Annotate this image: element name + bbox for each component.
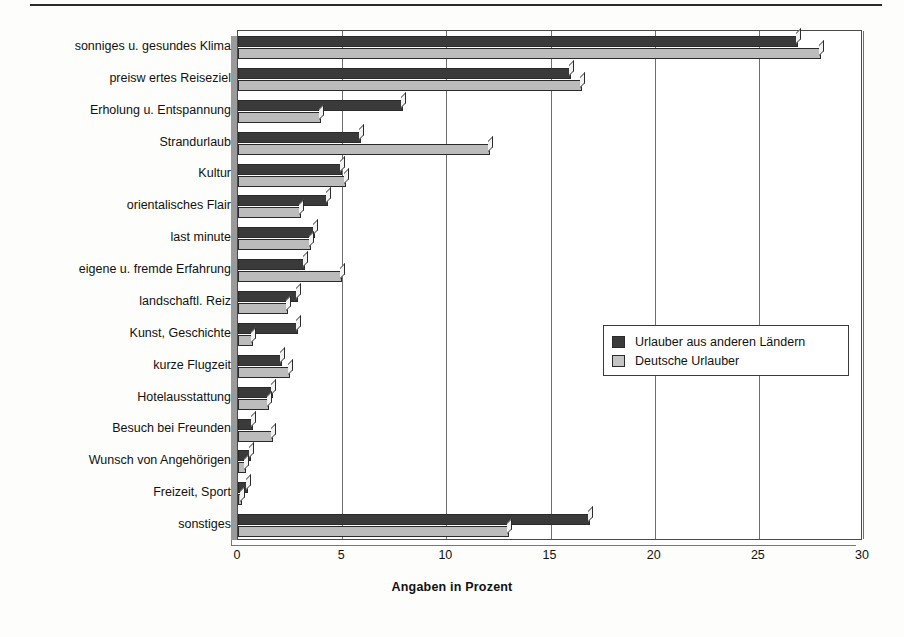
bar <box>238 48 821 59</box>
bar <box>238 367 290 378</box>
x-axis-title: Angaben in Prozent <box>0 580 904 594</box>
chart-legend: Urlauber aus anderen Ländern Deutsche Ur… <box>603 325 849 376</box>
category-axis-labels: sonniges u. gesundes Klimapreisw ertes R… <box>0 30 237 540</box>
x-tick-label: 20 <box>647 548 661 562</box>
bar <box>238 494 242 505</box>
bar <box>238 36 798 47</box>
bar <box>238 514 590 525</box>
bar <box>238 207 301 218</box>
gridline <box>863 31 864 539</box>
bar <box>238 355 282 366</box>
category-label: sonstiges <box>9 517 237 531</box>
bar <box>238 335 253 346</box>
bar <box>238 419 253 430</box>
bar <box>238 164 342 175</box>
bar <box>238 526 509 537</box>
gridline <box>551 31 552 539</box>
category-label: Hotelausstattung <box>9 390 237 404</box>
x-tick-label: 5 <box>338 548 345 562</box>
category-label: Besuch bei Freunden <box>9 421 237 435</box>
bar <box>238 227 315 238</box>
plot-area <box>237 30 862 540</box>
category-label: preisw ertes Reiseziel <box>9 71 237 85</box>
category-label: last minute <box>9 230 237 244</box>
bar <box>238 431 273 442</box>
bar <box>238 144 490 155</box>
category-label: landschaftl. Reiz <box>9 294 237 308</box>
legend-swatch-icon <box>612 336 625 348</box>
bar <box>238 132 361 143</box>
gridline <box>759 31 760 539</box>
category-label: kurze Flugzeit <box>9 358 237 372</box>
category-label: Strandurlaub <box>9 135 237 149</box>
bar <box>238 271 342 282</box>
bar <box>238 112 321 123</box>
x-tick-label: 10 <box>438 548 452 562</box>
bar <box>238 399 269 410</box>
bar <box>238 239 311 250</box>
category-label: Freizeit, Sport <box>9 485 237 499</box>
gridline <box>446 31 447 539</box>
legend-item-label: Urlauber aus anderen Ländern <box>635 335 805 349</box>
bar <box>238 80 582 91</box>
legend-item-label: Deutsche Urlauber <box>635 354 739 368</box>
legend-item: Urlauber aus anderen Ländern <box>612 332 840 351</box>
category-label: Wunsch von Angehörigen <box>9 453 237 467</box>
category-label: sonniges u. gesundes Klima <box>9 39 237 53</box>
bar <box>238 176 346 187</box>
x-tick-label: 0 <box>234 548 241 562</box>
legend-swatch-icon <box>612 355 625 367</box>
bar <box>238 259 305 270</box>
category-label: Erholung u. Entspannung <box>9 103 237 117</box>
legend-item: Deutsche Urlauber <box>612 351 840 370</box>
bar <box>238 195 328 206</box>
plot-bottom-wall <box>231 540 856 546</box>
category-label: eigene u. fremde Erfahrung <box>9 262 237 276</box>
gridline <box>655 31 656 539</box>
category-label: Kunst, Geschichte <box>9 326 237 340</box>
bar <box>238 68 571 79</box>
x-tick-label: 25 <box>751 548 765 562</box>
bar <box>238 462 246 473</box>
bar <box>238 303 288 314</box>
x-tick-label: 30 <box>855 548 869 562</box>
bar <box>238 323 298 334</box>
category-label: orientalisches Flair <box>9 198 237 212</box>
chart-page: sonniges u. gesundes Klimapreisw ertes R… <box>0 0 904 637</box>
x-axis-ticks: 051015202530 <box>0 548 904 568</box>
x-tick-label: 15 <box>543 548 557 562</box>
category-label: Kultur <box>9 166 237 180</box>
top-divider-rule <box>30 4 882 6</box>
